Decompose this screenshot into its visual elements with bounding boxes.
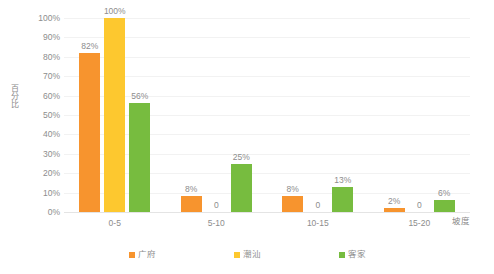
legend-swatch-icon [339,252,345,258]
bar[interactable] [231,164,252,213]
bar-group-bars: 2%06% [369,18,471,212]
legend-item[interactable]: 潮汕 [234,250,261,259]
legend-label: 客家 [348,250,366,259]
bar[interactable] [181,196,202,212]
plot-area: 82%100%56%8%025%8%013%2%06% [64,18,470,212]
bar[interactable] [79,53,100,212]
bar-slot: 100% [104,18,125,212]
bar-slot: 25% [231,18,252,212]
bar-slot: 6% [434,18,455,212]
y-axis-tick-label: 20% [20,169,60,178]
x-axis-tick-label: 5-10 [166,218,268,228]
bar-group: 82%100%56% [64,18,166,212]
bar-slot: 82% [79,18,100,212]
legend-item[interactable]: 客家 [339,250,366,259]
legend-swatch-icon [129,252,135,258]
bar-value-label: 0 [214,201,219,210]
bar-slot: 0 [409,18,430,212]
bar-value-label: 100% [104,7,126,16]
y-axis-tick-label: 30% [20,150,60,159]
bar-group-bars: 8%025% [166,18,268,212]
chart-legend: 广府潮汕客家 [0,250,494,259]
bar[interactable] [129,103,150,212]
y-axis-tick-labels: 100%90%80%70%60%50%40%30%20%10%0% [20,18,60,212]
bar-value-label: 2% [388,197,400,206]
bar-slot: 13% [332,18,353,212]
bar[interactable] [434,200,455,212]
bar-slot: 8% [181,18,202,212]
bar-slot: 0 [307,18,328,212]
y-axis-tick-label: 90% [20,33,60,42]
x-axis-tick-label: 15-20 [369,218,471,228]
bar-value-label: 0 [315,201,320,210]
bar-value-label: 25% [233,153,250,162]
bar-value-label: 82% [81,42,98,51]
x-axis-tick-label: 10-15 [267,218,369,228]
y-axis-tick-label: 0% [20,208,60,217]
bar-slot: 2% [384,18,405,212]
x-axis-tick-label: 0-5 [64,218,166,228]
y-axis-tick-label: 50% [20,111,60,120]
bar-slot: 0 [206,18,227,212]
y-axis-tick-label: 60% [20,92,60,101]
bar-value-label: 6% [438,189,450,198]
legend-item[interactable]: 广府 [129,250,156,259]
y-axis-tick-label: 100% [20,14,60,23]
y-axis-tick-label: 70% [20,72,60,81]
bar-value-label: 13% [334,176,351,185]
bar-slot: 8% [282,18,303,212]
bar[interactable] [104,18,125,212]
bar-group: 8%025% [166,18,268,212]
y-axis-tick-label: 40% [20,130,60,139]
bar[interactable] [282,196,303,212]
legend-label: 潮汕 [243,250,261,259]
bar-slot: 56% [129,18,150,212]
bar-value-label: 8% [185,185,197,194]
bar-group: 8%013% [267,18,369,212]
bar[interactable] [384,208,405,212]
bar-group: 2%06% [369,18,471,212]
y-axis-title: 百分比 [4,84,18,108]
bar-value-label: 8% [287,185,299,194]
bar-group-bars: 8%013% [267,18,369,212]
bar[interactable] [332,187,353,212]
y-axis-tick-label: 80% [20,53,60,62]
legend-swatch-icon [234,252,240,258]
gridline [64,212,470,213]
legend-label: 广府 [138,250,156,259]
bar-group-bars: 82%100%56% [64,18,166,212]
bar-value-label: 0 [417,201,422,210]
bar-chart: 百分比 100%90%80%70%60%50%40%30%20%10%0% 82… [0,0,494,274]
bar-value-label: 56% [131,92,148,101]
y-axis-tick-label: 10% [20,189,60,198]
